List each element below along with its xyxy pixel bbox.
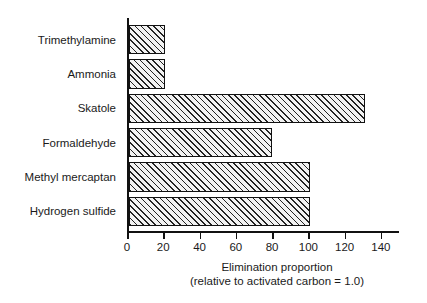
bar-formaldehyde [129, 128, 272, 157]
value-axis-title-line-2: (relative to activated carbon = 1.0) [127, 274, 427, 288]
category-axis-labels: Trimethylamine Ammonia Skatole Formaldeh… [0, 25, 120, 233]
bar-hydrogen-sulfide [129, 197, 310, 226]
value-axis-tick-mark [236, 233, 238, 239]
value-axis-tick-mark [345, 233, 347, 239]
value-axis-tick-mark [163, 233, 165, 239]
value-axis-tick-label: 40 [180, 241, 220, 254]
value-axis-line [127, 231, 399, 233]
category-label: Hydrogen sulfide [0, 205, 116, 217]
value-axis-tick-mark [200, 233, 202, 239]
value-axis-tick-label: 80 [252, 241, 292, 254]
bar-methyl-mercaptan [129, 162, 310, 191]
category-label: Skatole [0, 102, 116, 114]
value-axis-title: Elimination proportion (relative to acti… [127, 260, 427, 288]
value-axis-tick-label: 100 [288, 241, 328, 254]
value-axis-title-line-1: Elimination proportion [127, 260, 427, 274]
value-axis-tick-mark [381, 233, 383, 239]
bar-series [129, 25, 399, 231]
value-axis-tick-label: 140 [361, 241, 401, 254]
bar-ammonia [129, 59, 165, 88]
category-label: Trimethylamine [0, 34, 116, 46]
value-axis-tick-label: 0 [107, 241, 147, 254]
bar-trimethylamine [129, 25, 165, 54]
category-label: Formaldehyde [0, 137, 116, 149]
value-axis-tick-mark [272, 233, 274, 239]
category-label: Methyl mercaptan [0, 171, 116, 183]
value-axis-tick-label: 20 [143, 241, 183, 254]
category-label: Ammonia [0, 68, 116, 80]
bar-chart-figure: Trimethylamine Ammonia Skatole Formaldeh… [0, 0, 427, 303]
value-axis-tick-mark [127, 233, 129, 239]
value-axis-tick-mark [308, 233, 310, 239]
value-axis-tick-label: 60 [216, 241, 256, 254]
value-axis-tick-label: 120 [325, 241, 365, 254]
bar-skatole [129, 94, 365, 123]
plot-area: 020406080100120140 [127, 18, 399, 233]
